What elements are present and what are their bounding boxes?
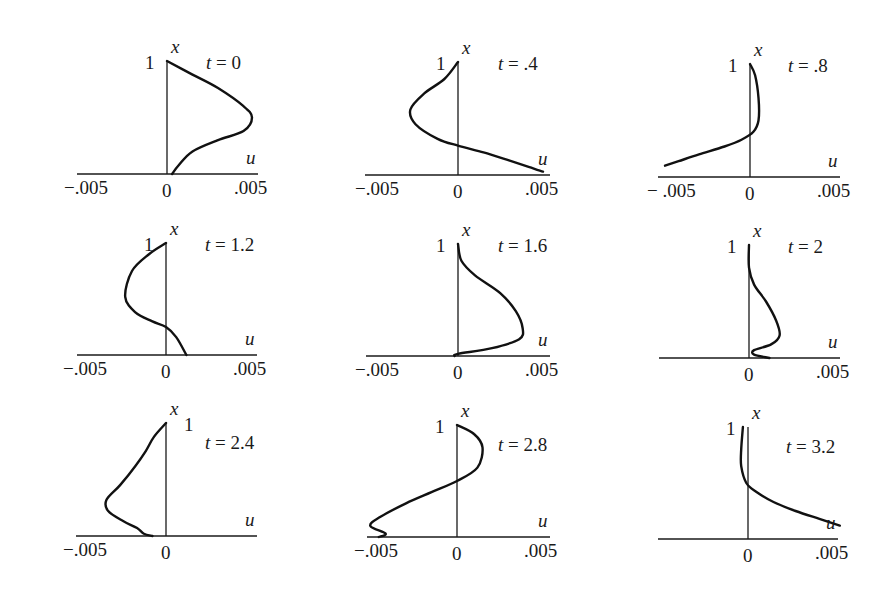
u-axis-label: u: [245, 509, 255, 530]
u-axis-label: u: [826, 512, 836, 533]
panel: x1ut = 1.2−.0050.005: [63, 218, 266, 382]
one-label: 1: [435, 416, 445, 437]
tick-label-pos: .005: [525, 178, 558, 199]
tick-label-pos: .005: [525, 359, 558, 380]
solution-curve: [125, 243, 186, 355]
panel: x1ut = 0−.0050.005: [64, 36, 267, 201]
panel: x1ut = 1.6−.0050.005: [355, 219, 558, 383]
solution-curve: [167, 61, 252, 174]
solution-curve: [410, 62, 543, 172]
tick-label-neg: −.005: [64, 177, 108, 198]
solution-curve: [665, 64, 759, 166]
solution-curve: [105, 423, 166, 536]
tick-label-pos: .005: [233, 358, 266, 379]
t-label: t = 2.8: [498, 434, 547, 455]
tick-label-zero: 0: [745, 183, 755, 204]
x-axis-label: x: [461, 37, 471, 58]
tick-label-zero: 0: [453, 362, 463, 383]
t-label: t = 2: [788, 236, 823, 257]
t-label: t = .4: [498, 53, 538, 74]
u-axis-label: u: [828, 331, 838, 352]
tick-label-pos: .005: [815, 542, 848, 563]
tick-label-zero: 0: [161, 542, 171, 563]
tick-label-zero: 0: [162, 180, 172, 201]
tick-label-pos: .005: [234, 177, 267, 198]
panel: x1ut = 2.8−.0050.005: [354, 400, 557, 564]
solution-curve: [454, 244, 523, 356]
tick-label-zero: 0: [453, 181, 463, 202]
t-label: t = 1.6: [498, 235, 547, 256]
panel: x1ut = .4−.0050.005: [355, 37, 558, 202]
tick-label-neg: −.005: [63, 539, 107, 560]
tick-label-zero: 0: [744, 364, 754, 385]
panel: x1ut = .8− .0050.005: [647, 39, 850, 204]
tick-label-neg: −.005: [355, 178, 399, 199]
small-multiples-figure: x1ut = 0−.0050.005x1ut = .4−.0050.005x1u…: [0, 0, 881, 594]
t-label: t = 1.2: [205, 234, 254, 255]
x-axis-label: x: [460, 400, 470, 421]
panel: x1ut = 20.005: [659, 220, 849, 385]
tick-label-neg: − .005: [647, 180, 696, 201]
x-axis-label: x: [752, 220, 762, 241]
one-label: 1: [728, 55, 738, 76]
panel: x1ut = 2.4−.0050: [63, 398, 257, 563]
x-axis-label: x: [170, 36, 180, 57]
t-label: t = 2.4: [205, 432, 255, 453]
u-axis-label: u: [538, 510, 548, 531]
u-axis-label: u: [538, 148, 548, 169]
one-label: 1: [145, 52, 155, 73]
tick-label-neg: −.005: [355, 359, 399, 380]
solution-curve: [370, 425, 482, 537]
tick-label-pos: .005: [817, 180, 850, 201]
x-axis-label: x: [169, 218, 179, 239]
t-label: t = 0: [206, 52, 241, 73]
u-axis-label: u: [828, 150, 838, 171]
one-label: 1: [144, 234, 154, 255]
one-label: 1: [726, 418, 736, 439]
t-label: t = .8: [788, 55, 828, 76]
solution-curve: [749, 245, 780, 358]
u-axis-label: u: [538, 329, 548, 350]
tick-label-neg: −.005: [354, 540, 398, 561]
tick-label-zero: 0: [743, 545, 753, 566]
one-label: 1: [184, 414, 194, 435]
tick-label-pos: .005: [816, 361, 849, 382]
one-label: 1: [436, 235, 446, 256]
tick-label-neg: −.005: [63, 358, 107, 379]
panel: x1ut = 3.20.005: [658, 402, 848, 566]
t-label: t = 3.2: [786, 436, 835, 457]
x-axis-label: x: [461, 219, 471, 240]
tick-label-pos: .005: [524, 540, 557, 561]
tick-label-zero: 0: [161, 361, 171, 382]
u-axis-label: u: [246, 147, 256, 168]
u-axis-label: u: [245, 328, 255, 349]
one-label: 1: [436, 53, 446, 74]
x-axis-label: x: [753, 39, 763, 60]
one-label: 1: [727, 236, 737, 257]
x-axis-label: x: [169, 398, 179, 419]
tick-label-zero: 0: [452, 543, 462, 564]
x-axis-label: x: [751, 402, 761, 423]
